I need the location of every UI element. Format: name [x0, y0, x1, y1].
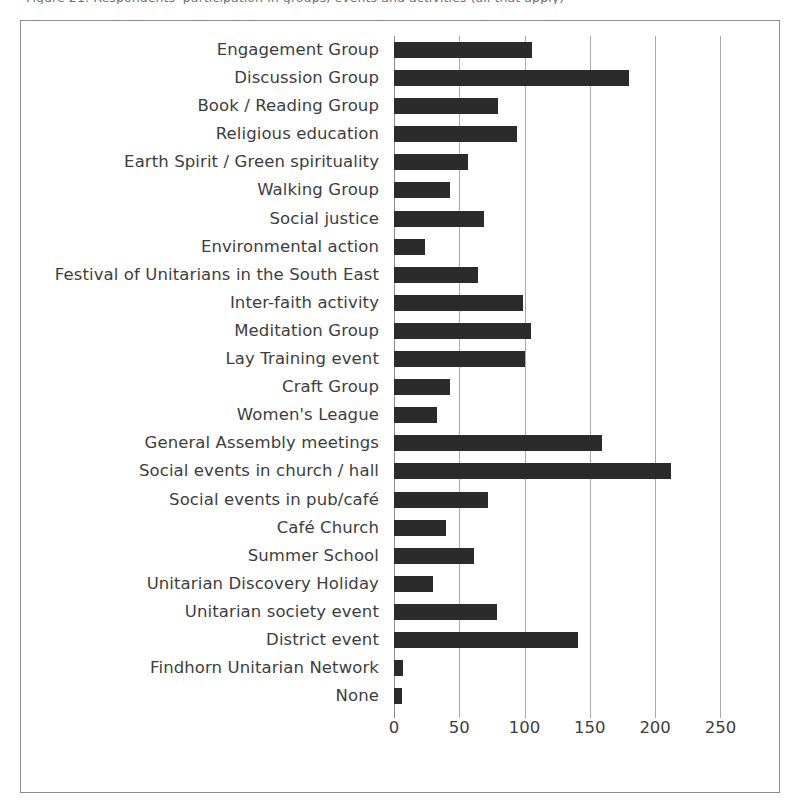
bar [394, 211, 484, 227]
category-label: Lay Training event [21, 345, 389, 373]
bar [394, 548, 474, 564]
bar [394, 463, 671, 479]
category-label: General Assembly meetings [21, 429, 389, 457]
bar [394, 70, 629, 86]
bar-row [394, 429, 740, 457]
category-label: Meditation Group [21, 317, 389, 345]
bar-row [394, 345, 740, 373]
category-label: Café Church [21, 514, 389, 542]
category-label: Festival of Unitarians in the South East [21, 261, 389, 289]
category-label: Social justice [21, 205, 389, 233]
bar-row [394, 598, 740, 626]
x-tick-label: 200 [639, 718, 671, 737]
bar [394, 407, 437, 423]
bar-row [394, 36, 740, 64]
bar-row [394, 457, 740, 485]
bar [394, 576, 433, 592]
bar-row [394, 233, 740, 261]
bar [394, 323, 531, 339]
category-label: District event [21, 626, 389, 654]
x-tick-label: 100 [509, 718, 541, 737]
category-label: Inter-faith activity [21, 289, 389, 317]
bar-row [394, 92, 740, 120]
category-label: Women's League [21, 401, 389, 429]
bar [394, 182, 450, 198]
bar [394, 688, 402, 704]
category-label: None [21, 682, 389, 710]
category-label: Discussion Group [21, 64, 389, 92]
bar [394, 379, 450, 395]
bar-row [394, 373, 740, 401]
bar [394, 126, 517, 142]
bar [394, 520, 446, 536]
cut-off-figure-caption: Figure 21: Respondents' participation in… [0, 0, 791, 4]
bar-row [394, 542, 740, 570]
category-label: Findhorn Unitarian Network [21, 654, 389, 682]
plot-wrapper: Engagement GroupDiscussion GroupBook / R… [21, 21, 779, 792]
bar-row [394, 64, 740, 92]
bar [394, 435, 602, 451]
category-label: Unitarian Discovery Holiday [21, 570, 389, 598]
bar-series [394, 36, 740, 710]
x-tick-label: 250 [705, 718, 737, 737]
bar-row [394, 120, 740, 148]
category-label: Unitarian society event [21, 598, 389, 626]
bar-row [394, 317, 740, 345]
bar-row [394, 289, 740, 317]
category-label: Summer School [21, 542, 389, 570]
bar [394, 42, 532, 58]
bar-row [394, 148, 740, 176]
bar-row [394, 261, 740, 289]
category-label: Social events in pub/café [21, 486, 389, 514]
bar-row [394, 514, 740, 542]
category-label: Craft Group [21, 373, 389, 401]
bar-row [394, 626, 740, 654]
x-tick-label: 0 [389, 718, 400, 737]
category-label: Earth Spirit / Green spirituality [21, 148, 389, 176]
bar-row [394, 654, 740, 682]
bar [394, 351, 525, 367]
bar [394, 267, 478, 283]
category-label: Engagement Group [21, 36, 389, 64]
bar [394, 660, 403, 676]
x-tick-label: 50 [449, 718, 470, 737]
category-label: Social events in church / hall [21, 457, 389, 485]
bar [394, 604, 497, 620]
plot-area [394, 36, 740, 710]
bar [394, 239, 425, 255]
bar [394, 492, 488, 508]
category-label: Religious education [21, 120, 389, 148]
bar [394, 98, 498, 114]
bar-row [394, 486, 740, 514]
value-axis-tick-labels: 050100150200250 [394, 718, 740, 748]
bar-row [394, 401, 740, 429]
bar-row [394, 176, 740, 204]
category-label: Walking Group [21, 176, 389, 204]
bar [394, 632, 578, 648]
category-axis-labels: Engagement GroupDiscussion GroupBook / R… [21, 36, 389, 710]
bar-row [394, 682, 740, 710]
bar-row [394, 205, 740, 233]
bar [394, 295, 523, 311]
bar-row [394, 570, 740, 598]
category-label: Book / Reading Group [21, 92, 389, 120]
x-tick-label: 150 [574, 718, 606, 737]
chart-frame: Engagement GroupDiscussion GroupBook / R… [20, 20, 780, 793]
bar [394, 154, 468, 170]
category-label: Environmental action [21, 233, 389, 261]
